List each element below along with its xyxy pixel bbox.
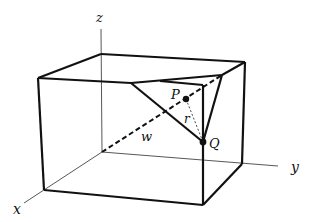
z-axis — [101, 29, 102, 152]
y-axis — [102, 152, 278, 166]
point-Q-label: Q — [209, 136, 220, 151]
segment-w-label: w — [141, 129, 152, 144]
y-axis-label: y — [290, 159, 300, 175]
axes — [24, 29, 278, 203]
z-axis-label: z — [95, 10, 103, 25]
point-P — [183, 96, 189, 102]
segment-r-label: r — [184, 112, 191, 126]
x-axis-label: x — [13, 201, 21, 217]
point-Q — [200, 139, 207, 146]
diagram-canvas: z y x P Q w r — [0, 0, 316, 222]
box-diagram: z y x P Q w r — [0, 0, 316, 222]
point-P-label: P — [170, 87, 180, 102]
